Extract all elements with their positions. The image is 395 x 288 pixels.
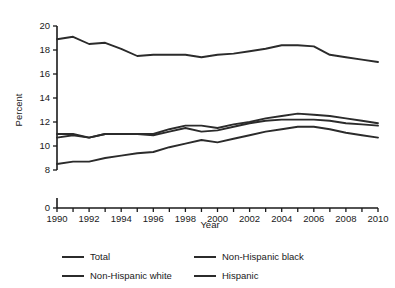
y-tick-label: 12 <box>39 116 50 127</box>
legend-line-icon <box>194 256 216 258</box>
y-tick-label: 18 <box>39 44 50 55</box>
x-tick-label: 2006 <box>303 213 324 224</box>
legend-line-icon <box>62 275 84 277</box>
x-tick-label: 2010 <box>367 213 388 224</box>
x-tick-label: 1998 <box>175 213 196 224</box>
x-tick-label: 1996 <box>143 213 164 224</box>
y-tick-label: 20 <box>39 20 50 31</box>
x-tick-label: 2004 <box>271 213 292 224</box>
x-tick-label: 1992 <box>79 213 100 224</box>
x-tick-label: 1990 <box>46 213 67 224</box>
legend-line-icon <box>194 275 216 277</box>
legend-label: Non-Hispanic white <box>90 271 172 281</box>
x-axis-title: Year <box>200 219 219 230</box>
y-axis-title: Percent <box>13 93 24 126</box>
chart-figure: 81012141618200 1990199219941996199820002… <box>0 0 395 288</box>
y-tick-label: 16 <box>39 68 50 79</box>
x-tick-label: 2002 <box>239 213 260 224</box>
legend-label: Non-Hispanic black <box>222 252 304 262</box>
series-line-non-hispanic-white <box>57 114 378 138</box>
legend-item-hispanic: Hispanic <box>194 271 354 281</box>
legend-item-total: Total <box>62 252 194 262</box>
series-line-hispanic <box>57 127 378 164</box>
y-axis: 81012141618200 <box>39 20 57 213</box>
chart-legend: Total Non-Hispanic black Non-Hispanic wh… <box>62 247 362 285</box>
series-lines <box>57 37 378 164</box>
y-tick-label: 10 <box>39 140 50 151</box>
legend-label: Hispanic <box>222 271 258 281</box>
series-line-non-hispanic-black <box>57 37 378 62</box>
legend-item-non-hispanic-black: Non-Hispanic black <box>194 252 354 262</box>
x-tick-label: 1994 <box>111 213 132 224</box>
y-tick-label: 14 <box>39 92 50 103</box>
y-tick-label-zero: 0 <box>45 202 50 213</box>
line-chart-plot: 81012141618200 1990199219941996199820002… <box>0 0 395 245</box>
legend-line-icon <box>62 256 84 258</box>
x-tick-label: 2008 <box>335 213 356 224</box>
legend-label: Total <box>90 252 110 262</box>
legend-item-non-hispanic-white: Non-Hispanic white <box>62 271 194 281</box>
y-tick-label: 8 <box>45 164 50 175</box>
